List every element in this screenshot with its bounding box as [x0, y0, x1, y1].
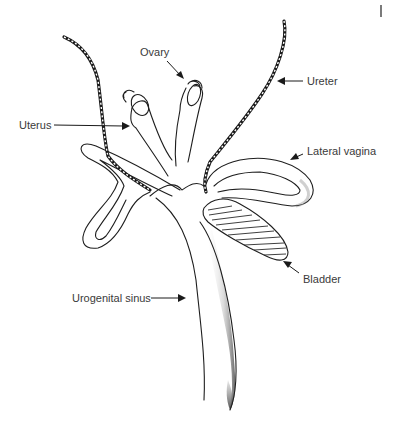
uterus-arrow [54, 125, 124, 126]
label-uterus: Uterus [19, 119, 51, 131]
urogenital-sinus [150, 183, 236, 410]
label-arrows [54, 61, 303, 302]
bladder-arrow [288, 265, 299, 273]
uterus-horns [123, 80, 203, 176]
reproductive-tract-diagram: Ovary Uterus Ureter Lateral vagina Bladd… [0, 0, 393, 428]
left-lateral-vagina [81, 144, 180, 248]
label-ovary: Ovary [140, 46, 169, 58]
label-bladder: Bladder [303, 273, 341, 285]
ureters [64, 21, 285, 192]
label-ureter: Ureter [307, 75, 338, 87]
label-urogenital-sinus: Urogenital sinus [72, 292, 151, 304]
label-lateral-vagina: Lateral vagina [307, 145, 376, 157]
